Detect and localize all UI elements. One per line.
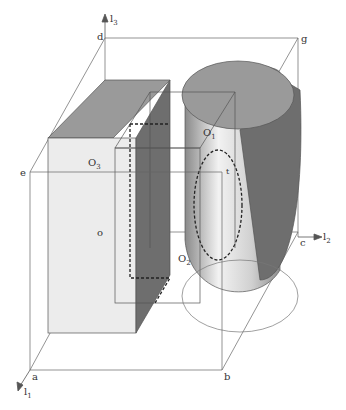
vertex-e: e: [20, 167, 26, 178]
diagram-canvas: l3 l2 l1 d g e o c a b O1 O2 O3 t: [0, 0, 346, 410]
axis-l3-arrow-icon: [102, 14, 108, 22]
vertex-g: g: [301, 33, 308, 44]
axis-l2-arrow-icon: [314, 234, 322, 240]
vertex-b: b: [224, 371, 230, 382]
vertex-c: c: [300, 237, 306, 248]
object-o3: [48, 80, 170, 333]
axis-label-l3: l3: [110, 13, 118, 27]
vertex-a: a: [32, 371, 38, 382]
vertex-d: d: [97, 31, 104, 42]
axis-label-l1: l1: [24, 386, 32, 400]
vertex-o: o: [97, 227, 103, 238]
axis-label-l2: l2: [323, 231, 331, 245]
